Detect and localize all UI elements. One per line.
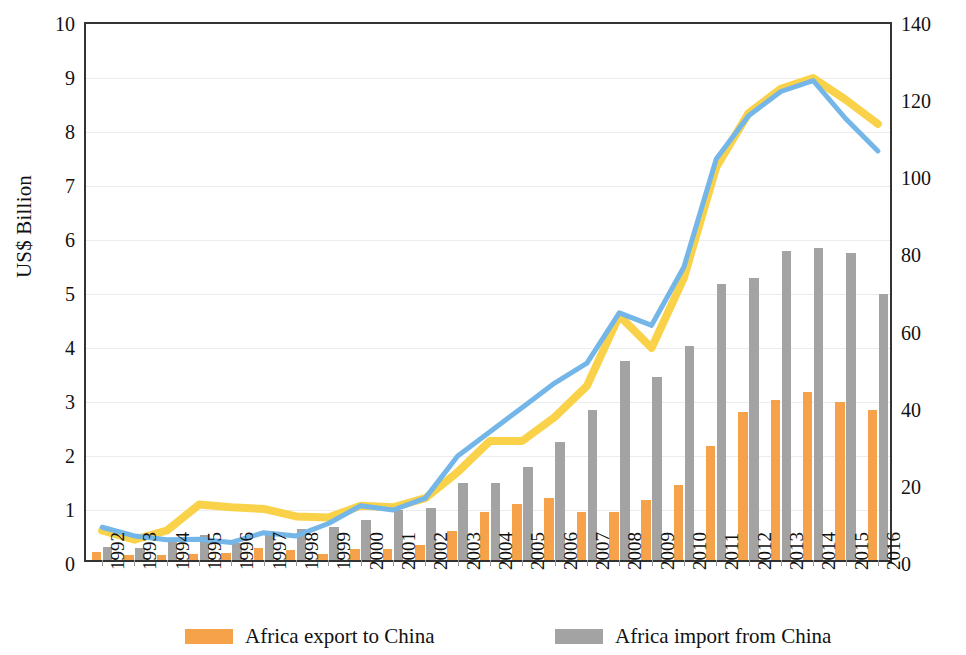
legend-label: Africa export to China bbox=[245, 624, 435, 649]
y-axis-right-tick-label: 120 bbox=[901, 91, 931, 111]
chart-legend: Africa export to ChinaAfrica import from… bbox=[0, 624, 966, 650]
legend-label: Africa import from China bbox=[615, 624, 831, 649]
x-axis-tick-label: 2007 bbox=[593, 532, 612, 570]
y-axis-left-tick-label: 9 bbox=[65, 68, 75, 88]
x-axis-tick-label: 2015 bbox=[852, 532, 871, 570]
bar-group bbox=[345, 24, 377, 560]
x-axis-tick-label: 1999 bbox=[334, 532, 353, 570]
x-axis-tick-mark bbox=[134, 560, 135, 566]
y-axis-right-tick-label: 20 bbox=[901, 477, 921, 497]
bar-group bbox=[312, 24, 344, 560]
x-axis-tick-label: 2006 bbox=[561, 532, 580, 570]
legend-swatch-icon bbox=[555, 629, 603, 644]
y-axis-left-tick-label: 0 bbox=[65, 554, 75, 574]
x-axis-tick-label: 2004 bbox=[496, 532, 515, 570]
x-axis-tick-label: 2013 bbox=[787, 532, 806, 570]
bar-group bbox=[151, 24, 183, 560]
legend-swatch-icon bbox=[185, 629, 233, 644]
x-axis-tick-mark bbox=[813, 560, 814, 566]
x-axis-tick-mark bbox=[652, 560, 653, 566]
x-axis-tick-mark bbox=[684, 560, 685, 566]
bar-group bbox=[538, 24, 570, 560]
y-axis-left-tick-label: 6 bbox=[65, 230, 75, 250]
x-axis-tick-label: 1993 bbox=[140, 532, 159, 570]
bar-group bbox=[118, 24, 150, 560]
x-axis-tick-mark bbox=[393, 560, 394, 566]
bar-group bbox=[765, 24, 797, 560]
x-axis-tick-mark bbox=[781, 560, 782, 566]
x-axis-tick-mark bbox=[555, 560, 556, 566]
x-axis-tick-mark bbox=[328, 560, 329, 566]
y-axis-left-tick-label: 2 bbox=[65, 446, 75, 466]
x-axis-tick-label: 2014 bbox=[819, 532, 838, 570]
x-axis-tick-label: 2002 bbox=[431, 532, 450, 570]
bar-group bbox=[700, 24, 732, 560]
bar-group bbox=[86, 24, 118, 560]
legend-item[interactable]: Africa export to China bbox=[185, 624, 435, 649]
y-axis-left-tick-label: 10 bbox=[55, 14, 75, 34]
x-axis-tick-mark bbox=[587, 560, 588, 566]
chart-container: US$ Billion 012345678910 020406080100120… bbox=[0, 0, 966, 655]
x-axis-tick-mark bbox=[425, 560, 426, 566]
x-axis-tick-label: 2000 bbox=[367, 532, 386, 570]
bar-group bbox=[506, 24, 538, 560]
x-axis-tick-mark bbox=[749, 560, 750, 566]
bar-group bbox=[215, 24, 247, 560]
y-axis-right-tick-label: 140 bbox=[901, 14, 931, 34]
bar-group bbox=[732, 24, 764, 560]
bar-group bbox=[248, 24, 280, 560]
bar-import bbox=[620, 361, 630, 560]
x-axis-tick-mark bbox=[878, 560, 879, 566]
y-axis-left-tick-label: 3 bbox=[65, 392, 75, 412]
bar-group bbox=[829, 24, 861, 560]
x-axis-tick-mark bbox=[167, 560, 168, 566]
x-axis-tick-label: 2012 bbox=[755, 532, 774, 570]
bar-group bbox=[409, 24, 441, 560]
bar-import bbox=[717, 284, 727, 560]
bar-import bbox=[749, 278, 759, 560]
bar-import bbox=[685, 346, 695, 560]
x-axis-tick-mark bbox=[264, 560, 265, 566]
y-axis-left-tick-label: 5 bbox=[65, 284, 75, 304]
bar-group bbox=[862, 24, 894, 560]
bar-group bbox=[377, 24, 409, 560]
x-axis-tick-mark bbox=[619, 560, 620, 566]
y-axis-title: US$ Billion bbox=[12, 137, 37, 317]
x-axis-tick-label: 1998 bbox=[302, 532, 321, 570]
x-axis-tick-mark bbox=[490, 560, 491, 566]
y-axis-left-tick-label: 1 bbox=[65, 500, 75, 520]
bar-import bbox=[846, 253, 856, 560]
x-axis-tick-label: 2001 bbox=[399, 532, 418, 570]
x-axis-tick-label: 1995 bbox=[205, 532, 224, 570]
x-axis-tick-mark bbox=[296, 560, 297, 566]
x-axis-tick-label: 1992 bbox=[108, 532, 127, 570]
bar-group bbox=[442, 24, 474, 560]
x-axis-tick-label: 1997 bbox=[270, 532, 289, 570]
x-axis-tick-label: 2009 bbox=[658, 532, 677, 570]
x-axis-tick-label: 1996 bbox=[237, 532, 256, 570]
bar-group bbox=[797, 24, 829, 560]
bar-group bbox=[571, 24, 603, 560]
x-axis-tick-mark bbox=[522, 560, 523, 566]
bar-group bbox=[603, 24, 635, 560]
bar-group bbox=[668, 24, 700, 560]
bar-export bbox=[92, 552, 102, 560]
x-axis-tick-mark bbox=[846, 560, 847, 566]
bar-group bbox=[183, 24, 215, 560]
plot-area: 012345678910 020406080100120140 bbox=[84, 22, 892, 562]
x-axis-tick-label: 2005 bbox=[528, 532, 547, 570]
x-axis-tick-label: 2010 bbox=[690, 532, 709, 570]
bar-import bbox=[782, 251, 792, 560]
x-axis-tick-label: 2011 bbox=[722, 533, 741, 570]
x-axis-tick-label: 2008 bbox=[625, 532, 644, 570]
x-axis-tick-mark bbox=[199, 560, 200, 566]
x-axis-tick-mark bbox=[231, 560, 232, 566]
y-axis-right-tick-label: 60 bbox=[901, 323, 921, 343]
y-axis-right-tick-label: 40 bbox=[901, 400, 921, 420]
legend-item[interactable]: Africa import from China bbox=[555, 624, 831, 649]
x-axis-tick-mark bbox=[361, 560, 362, 566]
bar-import bbox=[814, 248, 824, 560]
y-axis-right-tick-label: 100 bbox=[901, 168, 931, 188]
x-axis-tick-label: 2016 bbox=[884, 532, 903, 570]
x-axis-tick-mark bbox=[716, 560, 717, 566]
